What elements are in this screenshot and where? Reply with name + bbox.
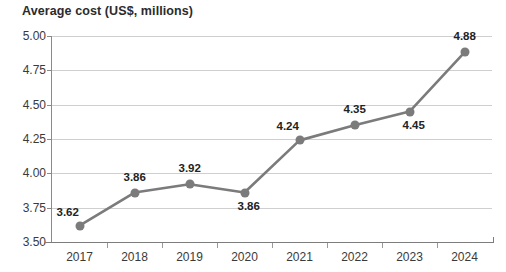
data-point-label: 3.86 — [238, 200, 260, 212]
x-axis-tick-label: 2017 — [66, 250, 93, 264]
data-point-label: 3.86 — [124, 171, 146, 183]
x-axis-tick-label: 2022 — [341, 250, 368, 264]
data-point-marker[interactable] — [460, 48, 469, 57]
x-axis-tick-mark — [437, 243, 438, 248]
x-axis-tick-label: 2019 — [176, 250, 203, 264]
data-point-marker[interactable] — [185, 180, 194, 189]
data-point-label: 3.92 — [179, 162, 201, 174]
x-axis-tick-label: 2024 — [451, 250, 478, 264]
data-point-marker[interactable] — [350, 121, 359, 130]
data-point-label: 4.35 — [344, 103, 366, 115]
x-axis-end-cap — [493, 237, 494, 243]
x-axis-tick-label: 2023 — [396, 250, 423, 264]
x-axis-tick-label: 2021 — [286, 250, 313, 264]
data-point-marker[interactable] — [295, 136, 304, 145]
x-axis-tick-mark — [327, 243, 328, 248]
x-axis-tick-mark — [107, 243, 108, 248]
chart-container: Average cost (US$, millions) 5.004.754.5… — [0, 0, 506, 272]
x-axis-tick-mark — [162, 243, 163, 248]
data-point-marker[interactable] — [240, 188, 249, 197]
line-series-path — [0, 0, 506, 272]
x-axis-tick-label: 2020 — [231, 250, 258, 264]
data-point-label: 4.45 — [403, 119, 425, 131]
x-axis-tick-mark — [382, 243, 383, 248]
data-point-label: 3.62 — [57, 206, 79, 218]
x-axis-tick-mark — [272, 243, 273, 248]
data-point-label: 4.24 — [277, 120, 299, 132]
x-axis-tick-label: 2018 — [121, 250, 148, 264]
data-point-marker[interactable] — [405, 107, 414, 116]
data-point-marker[interactable] — [130, 188, 139, 197]
x-axis-tick-mark — [217, 243, 218, 248]
data-point-label: 4.88 — [454, 30, 476, 42]
x-axis-line — [45, 242, 494, 243]
data-point-marker[interactable] — [75, 221, 84, 230]
